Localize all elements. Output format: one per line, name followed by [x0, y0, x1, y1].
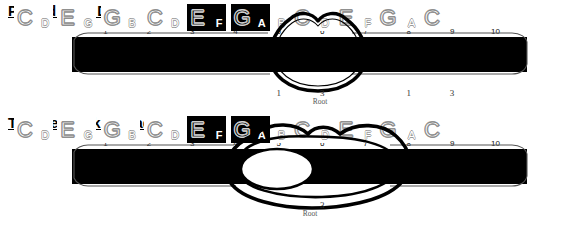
- blow-note-5: E: [190, 5, 205, 30]
- blow-note-2: E: [60, 117, 75, 142]
- root-label: Root: [292, 97, 348, 106]
- blow-note-9: G: [380, 5, 397, 30]
- harmonica-hole-10[interactable]: CA: [404, 116, 443, 143]
- scale-degree-label: 1: [389, 88, 428, 98]
- blow-note-8: E: [339, 5, 354, 30]
- harmonica-hole-6[interactable]: GA: [231, 116, 270, 143]
- blow-note-7: C: [294, 5, 310, 30]
- draw-note-6: A: [258, 129, 266, 141]
- draw-note-4: D: [171, 129, 179, 141]
- blow-note-4: C: [147, 117, 163, 142]
- draw-note-2: G: [84, 17, 93, 29]
- draw-note-5: F: [216, 129, 223, 141]
- harmonica-body: [72, 149, 527, 184]
- draw-note-1: D: [41, 17, 49, 29]
- harmonica-hole-9[interactable]: GF: [361, 4, 400, 31]
- blow-note-6: G: [234, 117, 251, 142]
- draw-note-3: B: [128, 17, 135, 29]
- draw-note-8: D: [321, 17, 329, 29]
- blow-note-7: C: [294, 117, 310, 142]
- blow-note-1: C: [17, 5, 33, 30]
- blow-note-1: C: [17, 117, 33, 142]
- draw-note-7: B: [278, 17, 285, 29]
- blow-note-9: G: [380, 117, 397, 142]
- diagram-tongue-block: Tongue Block F Dyad CD1EG2GB3CD4EF5GA6CB…: [0, 112, 570, 224]
- draw-note-10: A: [408, 17, 415, 29]
- scale-degree-label: 3: [433, 88, 472, 98]
- hole-number-10: 10: [476, 27, 515, 36]
- harmonica-hole-7[interactable]: CB: [274, 116, 313, 143]
- harmonica-hole-6[interactable]: GA: [231, 4, 270, 31]
- harmonica-hole-1[interactable]: CD: [14, 116, 53, 143]
- draw-note-9: F: [365, 17, 372, 29]
- blow-note-8: E: [339, 117, 354, 142]
- hole-number-10: 10: [476, 139, 515, 148]
- harmonica-hole-10[interactable]: CA: [404, 4, 443, 31]
- harmonica-hole-3[interactable]: GB: [101, 4, 140, 31]
- blow-note-10: C: [424, 5, 440, 30]
- harmonica-hole-5[interactable]: EF: [187, 4, 226, 31]
- harmonica-hole-9[interactable]: GF: [361, 116, 400, 143]
- draw-note-5: F: [216, 17, 223, 29]
- harmonica-hole-2[interactable]: EG: [57, 4, 96, 31]
- harmonica-hole-2[interactable]: EG: [57, 116, 96, 143]
- harmonica-hole-4[interactable]: CD: [144, 4, 183, 31]
- blow-note-2: E: [60, 5, 75, 30]
- draw-note-4: D: [171, 17, 179, 29]
- draw-note-1: D: [41, 129, 49, 141]
- draw-note-6: A: [258, 17, 266, 29]
- harmonica-hole-5[interactable]: EF: [187, 116, 226, 143]
- draw-note-10: A: [408, 129, 415, 141]
- blow-note-10: C: [424, 117, 440, 142]
- harmonica-hole-8[interactable]: ED: [317, 116, 356, 143]
- harmonica-body: [72, 37, 527, 72]
- draw-note-2: G: [84, 129, 93, 141]
- blow-note-5: E: [190, 117, 205, 142]
- blow-note-3: G: [104, 117, 121, 142]
- blow-note-6: G: [234, 5, 251, 30]
- harmonica-hole-7[interactable]: CB: [274, 4, 313, 31]
- draw-note-8: D: [321, 129, 329, 141]
- root-label: Root: [282, 209, 338, 218]
- harmonica-hole-8[interactable]: ED: [317, 4, 356, 31]
- draw-note-7: B: [278, 129, 285, 141]
- blow-note-4: C: [147, 5, 163, 30]
- harmonica-hole-4[interactable]: CD: [144, 116, 183, 143]
- harmonica-hole-3[interactable]: GB: [101, 116, 140, 143]
- draw-note-3: B: [128, 129, 135, 141]
- harmonica-hole-1[interactable]: CD: [14, 4, 53, 31]
- blow-note-3: G: [104, 5, 121, 30]
- draw-note-9: F: [365, 129, 372, 141]
- diagram-pursed-lip: Pursed Lip F Dyad CD1EG2GB3CD4EF5GA6CB7E…: [0, 0, 570, 112]
